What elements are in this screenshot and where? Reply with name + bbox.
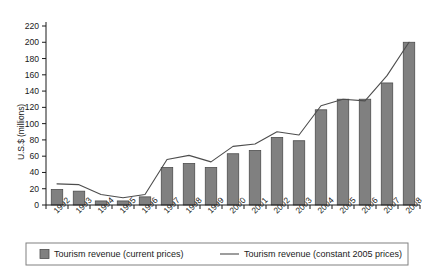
svg-text:200: 200	[25, 37, 40, 47]
svg-text:40: 40	[29, 167, 39, 177]
svg-text:140: 140	[25, 86, 40, 96]
y-axis-title: U.S.$ (millions)	[16, 104, 26, 160]
svg-text:Tourism revenue (constant 2005: Tourism revenue (constant 2005 prices)	[244, 249, 402, 259]
chart-legend: Tourism revenue (current prices)Tourism …	[26, 243, 408, 265]
tourism-revenue-chart: U.S.$ (millions) 02040608010012014016018…	[0, 0, 434, 274]
svg-text:20: 20	[29, 184, 39, 194]
y-axis-ticks: 020406080100120140160180200220	[25, 21, 46, 210]
svg-text:120: 120	[25, 102, 40, 112]
svg-text:100: 100	[25, 119, 40, 129]
svg-text:80: 80	[29, 135, 39, 145]
svg-text:0: 0	[34, 200, 39, 210]
svg-text:180: 180	[25, 54, 40, 64]
svg-text:60: 60	[29, 151, 39, 161]
svg-text:Tourism revenue (current price: Tourism revenue (current prices)	[54, 249, 184, 259]
bar-series	[51, 42, 414, 205]
svg-text:160: 160	[25, 70, 40, 80]
svg-text:220: 220	[25, 21, 40, 31]
chart-canvas: 020406080100120140160180200220 199219931…	[0, 0, 434, 274]
